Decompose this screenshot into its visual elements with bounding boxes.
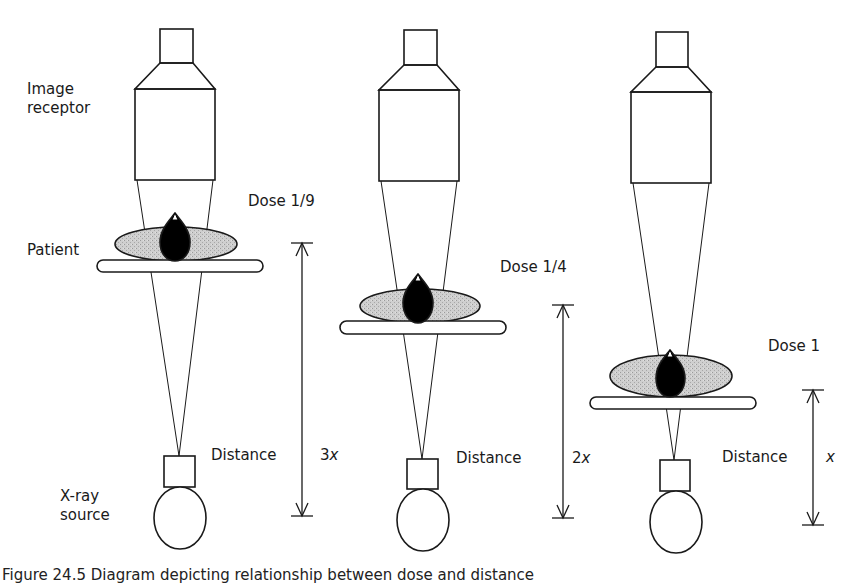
panel-1 [97, 29, 313, 549]
distance-arrow-3 [802, 390, 824, 525]
panel-3 [590, 32, 824, 553]
distance-factor-2: 2 [572, 449, 582, 467]
xray-source-3 [650, 460, 702, 553]
distance-value-2: 2x [572, 449, 590, 468]
image-receptor-label-line1: Image [27, 80, 90, 99]
xray-source-label-line1: X-ray [60, 487, 110, 506]
distance-label-2: Distance [456, 449, 522, 468]
patient-table-2 [340, 321, 506, 334]
distance-label-3: Distance [722, 448, 788, 467]
image-receptor-3 [631, 32, 711, 183]
distance-label-1: Distance [211, 446, 277, 465]
xray-source-label-line2: source [60, 506, 110, 525]
distance-value-1: 3x [320, 446, 338, 465]
patient-label: Patient [27, 241, 79, 260]
xray-source-1 [154, 456, 206, 549]
dose-label-3: Dose 1 [768, 337, 820, 356]
dose-label-1: Dose 1/9 [248, 192, 315, 211]
image-receptor-1 [135, 29, 215, 180]
panel-2 [340, 30, 574, 551]
xray-source-2 [397, 459, 449, 551]
figure-caption: Figure 24.5 Diagram depicting relationsh… [2, 566, 534, 584]
xray-source-label: X-ray source [60, 487, 110, 525]
organ-icon-1 [160, 213, 190, 261]
image-receptor-label: Image receptor [27, 80, 90, 118]
dose-label-2: Dose 1/4 [500, 258, 567, 277]
distance-var-3: x [826, 448, 835, 466]
distance-factor-1: 3 [320, 446, 330, 464]
xray-beam-3 [633, 183, 709, 460]
distance-value-3: x [826, 448, 835, 467]
distance-var-2: x [582, 449, 591, 467]
image-receptor-2 [379, 30, 459, 181]
patient-table-3 [590, 397, 756, 409]
organ-icon-2 [403, 274, 433, 323]
patient-table-1 [97, 260, 263, 272]
distance-arrow-2 [552, 305, 574, 518]
image-receptor-label-line2: receptor [27, 99, 90, 118]
distance-var-1: x [330, 446, 339, 464]
distance-arrow-1 [291, 243, 313, 516]
